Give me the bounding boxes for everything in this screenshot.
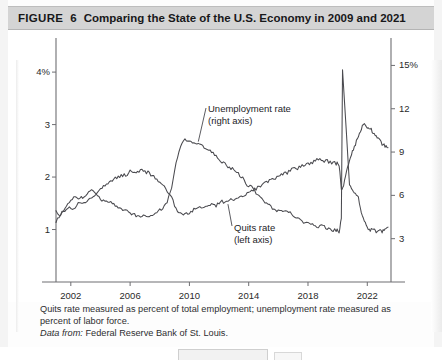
- figure-caption-source: Data from: Federal Reserve Bank of St. L…: [40, 328, 412, 340]
- annotation-unemployment-line1: Unemployment rate: [208, 103, 291, 115]
- series-line-unemployment-rate: [56, 70, 388, 233]
- annotation-quits-line1: Quits rate: [234, 222, 275, 234]
- x-axis-tick-label: 2010: [167, 290, 211, 301]
- source-text: Federal Reserve Bank of St. Louis.: [85, 328, 227, 338]
- figure-caption-note: Quits rate measured as percent of total …: [40, 304, 412, 327]
- series-line-quits-rate: [56, 124, 388, 216]
- leader-line-unemployment: [198, 108, 206, 142]
- source-prefix: Data from:: [40, 328, 83, 338]
- figure-label: FIGURE: [18, 12, 63, 24]
- page-bottom-panel-secondary: [274, 352, 302, 360]
- figure-header-bar: FIGURE 6 Comparing the State of the U.S.…: [8, 6, 434, 30]
- x-axis-tick-label: 2006: [108, 290, 152, 301]
- chart-plot-area: 4%321 15%12963 200220062010201420182022 …: [8, 30, 434, 302]
- right-axis-tick-label: 12: [399, 103, 410, 114]
- left-axis-tick-label: 4%: [14, 66, 50, 77]
- plot-left-shading: [16, 60, 19, 332]
- figure-title: Comparing the State of the U.S. Economy …: [84, 12, 406, 24]
- left-axis-tick-label: 2: [14, 171, 50, 182]
- x-axis-tick-label: 2018: [286, 290, 330, 301]
- x-axis-tick-label: 2014: [227, 290, 271, 301]
- figure-number: 6: [70, 12, 76, 24]
- leader-line-quits: [228, 204, 232, 226]
- x-axis-tick-label: 2022: [345, 290, 389, 301]
- left-axis-tick-label: 3: [14, 119, 50, 130]
- figure-header-content: FIGURE 6 Comparing the State of the U.S.…: [8, 12, 406, 24]
- annotation-unemployment-line2: (right axis): [208, 115, 291, 127]
- page-left-margin: [0, 0, 8, 347]
- right-axis-tick-label: 3: [399, 233, 404, 244]
- annotation-quits: Quits rate (left axis): [234, 222, 275, 246]
- annotation-quits-line2: (left axis): [234, 234, 275, 246]
- annotation-unemployment: Unemployment rate (right axis): [208, 103, 291, 127]
- plot-right-shading: [431, 60, 442, 332]
- left-axis-tick-label: 1: [14, 224, 50, 235]
- right-axis-tick-label: 15%: [399, 59, 418, 70]
- chart-canvas: [8, 30, 434, 302]
- page-bottom-panel: [178, 349, 268, 360]
- x-axis-tick-label: 2002: [49, 290, 93, 301]
- right-axis-tick-label: 9: [399, 146, 404, 157]
- right-axis-tick-label: 6: [399, 189, 404, 200]
